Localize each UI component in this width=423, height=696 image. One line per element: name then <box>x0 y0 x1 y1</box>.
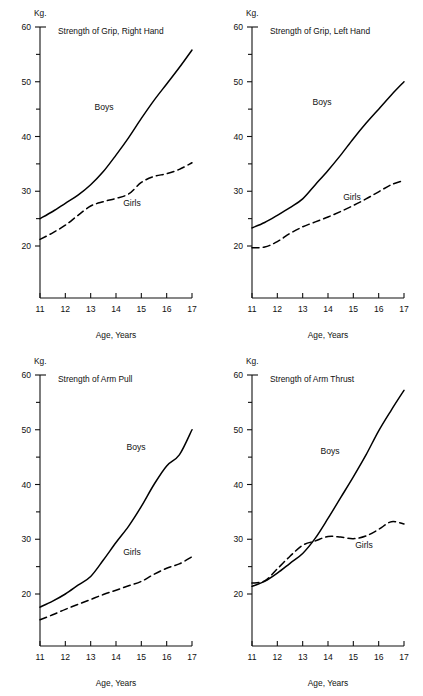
y-axis-tick-label: 30 <box>233 534 243 544</box>
x-axis-tick-label: 13 <box>86 652 96 662</box>
y-axis-tick-label: 30 <box>233 186 243 196</box>
x-axis-tick-label: 15 <box>137 652 147 662</box>
x-axis-label: Age, Years <box>308 330 349 340</box>
x-axis-tick-label: 14 <box>323 304 333 314</box>
y-axis-tick-label: 40 <box>233 480 243 490</box>
y-axis-tick-label: 60 <box>233 370 243 380</box>
y-axis-tick-label: 20 <box>233 589 243 599</box>
y-axis-tick-label: 50 <box>233 425 243 435</box>
series-line-girls <box>252 180 404 247</box>
x-axis-tick-label: 11 <box>248 652 257 662</box>
y-axis-tick-label: 50 <box>21 77 31 87</box>
y-axis-tick-label: 40 <box>21 480 31 490</box>
x-axis-tick-label: 17 <box>187 304 197 314</box>
x-axis-tick-label: 13 <box>86 304 96 314</box>
x-axis-tick-label: 12 <box>273 304 283 314</box>
y-axis-tick-label: 30 <box>21 534 31 544</box>
series-line-boys <box>252 390 404 586</box>
chart-svg-arm-pull: Kg.Strength of Arm Pull20304050601112131… <box>0 348 212 696</box>
chart-svg-arm-thrust: Kg.Strength of Arm Thrust203040506011121… <box>212 348 423 696</box>
chart-panel-grip-left: Kg.Strength of Grip, Left Hand2030405060… <box>212 0 423 348</box>
x-axis-tick-label: 14 <box>111 304 121 314</box>
x-axis-tick-label: 11 <box>248 304 257 314</box>
x-axis-label: Age, Years <box>96 330 137 340</box>
chart-title: Strength of Arm Pull <box>58 374 133 384</box>
series-line-girls <box>252 522 404 584</box>
y-axis-tick-label: 20 <box>233 241 243 251</box>
x-axis-tick-label: 15 <box>137 304 147 314</box>
series-line-boys <box>40 430 192 607</box>
y-axis-tick-label: 60 <box>21 370 31 380</box>
x-axis-tick-label: 15 <box>349 304 359 314</box>
y-axis-tick-label: 20 <box>21 241 31 251</box>
y-axis-tick-label: 50 <box>21 425 31 435</box>
series-label-girls: Girls <box>355 540 373 550</box>
series-line-girls <box>40 163 192 240</box>
y-axis-tick-label: 60 <box>233 22 243 32</box>
x-axis-tick-label: 13 <box>298 652 308 662</box>
y-axis-unit-label: Kg. <box>34 356 47 366</box>
series-label-boys: Boys <box>312 97 331 107</box>
series-line-boys <box>40 50 192 219</box>
x-axis-tick-label: 17 <box>187 652 197 662</box>
x-axis-tick-label: 16 <box>374 652 384 662</box>
x-axis-tick-label: 11 <box>36 304 45 314</box>
series-label-girls: Girls <box>123 547 141 557</box>
chart-panel-arm-thrust: Kg.Strength of Arm Thrust203040506011121… <box>212 348 423 696</box>
x-axis-tick-label: 17 <box>399 652 409 662</box>
y-axis-tick-label: 60 <box>21 22 31 32</box>
chart-title: Strength of Grip, Right Hand <box>58 26 164 36</box>
x-axis-label: Age, Years <box>96 678 137 688</box>
chart-panel-arm-pull: Kg.Strength of Arm Pull20304050601112131… <box>0 348 212 696</box>
series-label-boys: Boys <box>320 446 339 456</box>
chart-title: Strength of Grip, Left Hand <box>270 26 370 36</box>
x-axis-tick-label: 17 <box>399 304 409 314</box>
x-axis-tick-label: 16 <box>374 304 384 314</box>
y-axis-tick-label: 50 <box>233 77 243 87</box>
x-axis-tick-label: 13 <box>298 304 308 314</box>
x-axis-tick-label: 14 <box>323 652 333 662</box>
x-axis-tick-label: 15 <box>349 652 359 662</box>
x-axis-tick-label: 12 <box>273 652 283 662</box>
x-axis-tick-label: 11 <box>36 652 45 662</box>
y-axis-tick-label: 40 <box>233 132 243 142</box>
series-line-girls <box>40 557 192 620</box>
x-axis-label: Age, Years <box>308 678 349 688</box>
chart-svg-grip-right: Kg.Strength of Grip, Right Hand203040506… <box>0 0 212 348</box>
series-label-girls: Girls <box>123 198 141 208</box>
series-label-boys: Boys <box>126 442 145 452</box>
x-axis-tick-label: 12 <box>61 652 71 662</box>
y-axis-tick-label: 30 <box>21 186 31 196</box>
y-axis-unit-label: Kg. <box>246 356 259 366</box>
chart-title: Strength of Arm Thrust <box>270 374 355 384</box>
y-axis-tick-label: 20 <box>21 589 31 599</box>
x-axis-tick-label: 12 <box>61 304 71 314</box>
chart-panel-grip-right: Kg.Strength of Grip, Right Hand203040506… <box>0 0 212 348</box>
chart-grid: Kg.Strength of Grip, Right Hand203040506… <box>0 0 423 696</box>
series-label-boys: Boys <box>94 102 113 112</box>
x-axis-tick-label: 16 <box>162 652 172 662</box>
y-axis-unit-label: Kg. <box>34 8 47 18</box>
x-axis-tick-label: 16 <box>162 304 172 314</box>
y-axis-tick-label: 40 <box>21 132 31 142</box>
chart-svg-grip-left: Kg.Strength of Grip, Left Hand2030405060… <box>212 0 423 348</box>
y-axis-unit-label: Kg. <box>246 8 259 18</box>
x-axis-tick-label: 14 <box>111 652 121 662</box>
series-label-girls: Girls <box>343 192 361 202</box>
